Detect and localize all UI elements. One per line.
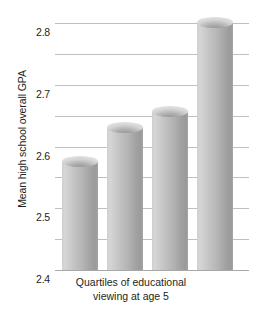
bar-chart-figure: Mean high school overall GPA 2.82.72.62.… [0, 0, 261, 318]
bar [152, 106, 188, 270]
gridline: 2.0 [55, 270, 249, 271]
y-axis-tick-label: 2.8 [36, 26, 50, 38]
plot-area: 2.82.72.62.52.42.32.22.12.0 [55, 14, 249, 270]
y-axis-tick-label: 2.7 [36, 88, 50, 100]
x-axis-title-line-2: viewing at age 5 [93, 290, 169, 302]
y-axis-title: Mean high school overall GPA [16, 24, 28, 254]
bar-top-ellipse [197, 17, 233, 28]
bar-body [152, 111, 188, 270]
bar-body [107, 127, 143, 270]
bar [62, 156, 98, 270]
bar-body [197, 22, 233, 270]
bar-top-ellipse [62, 156, 98, 167]
bar [107, 122, 143, 270]
bar [197, 17, 233, 270]
bar-top-ellipse [107, 122, 143, 133]
y-axis-tick-label: 2.6 [36, 150, 50, 162]
x-axis-title: Quartiles of educational viewing at age … [36, 276, 226, 303]
x-axis-title-line-1: Quartiles of educational [76, 276, 186, 288]
bar-body [62, 161, 98, 270]
y-axis-tick-label: 2.5 [36, 211, 50, 223]
